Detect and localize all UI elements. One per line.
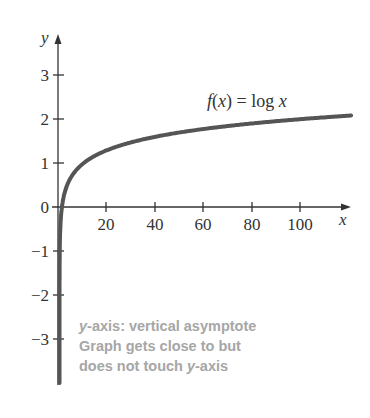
y-axis-label: y xyxy=(39,28,49,47)
x-axis-label: x xyxy=(338,210,347,229)
y-tick-label: 1 xyxy=(41,154,50,173)
asymptote-annotation: y-axis: vertical asymptote Graph gets cl… xyxy=(79,316,256,376)
x-tick-label: 80 xyxy=(244,215,261,234)
y-tick-label: 2 xyxy=(41,110,50,129)
y-tick-label: −1 xyxy=(31,242,49,261)
annotation-italic-y: y xyxy=(79,318,87,334)
annotation-line-3: does not touch y-axis xyxy=(79,356,256,376)
y-tick-label: 0 xyxy=(41,198,50,217)
x-tick-label: 100 xyxy=(287,215,313,234)
annotation-text: -axis: vertical asymptote xyxy=(87,318,256,334)
x-tick-label: 40 xyxy=(147,215,164,234)
annotation-line-2: Graph gets close to but xyxy=(79,336,256,356)
x-tick-label: 20 xyxy=(98,215,115,234)
annotation-line-1: y-axis: vertical asymptote xyxy=(79,316,256,336)
x-tick-label: 60 xyxy=(195,215,212,234)
function-label: f(x) = log x xyxy=(207,91,287,112)
annotation-text: -axis xyxy=(195,358,228,374)
y-tick-label: −3 xyxy=(31,330,49,349)
annotation-italic-y: y xyxy=(187,358,195,374)
y-tick-label: −2 xyxy=(31,286,49,305)
annotation-text: does not touch xyxy=(79,358,187,374)
y-tick-label: 3 xyxy=(41,66,50,85)
y-axis-arrow-icon xyxy=(55,34,62,44)
